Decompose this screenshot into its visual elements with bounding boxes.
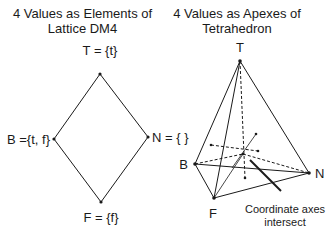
tetra-center-point	[242, 153, 245, 156]
lattice-edge-t-b	[54, 74, 100, 139]
tetra-label-b: B	[179, 157, 188, 172]
lattice-node-b	[52, 137, 55, 140]
lattice-node-f	[99, 200, 102, 203]
tetra-label-f: F	[209, 206, 217, 221]
tetra-edge-b-f	[195, 164, 214, 198]
tetra-axis-vertical	[240, 61, 245, 178]
lattice-diagram	[54, 74, 148, 202]
lattice-node-n	[146, 135, 149, 138]
lattice-edge-t-n	[100, 74, 148, 137]
annotation-line1: Coordinate axes	[245, 203, 326, 215]
tetra-label-t: T	[236, 40, 244, 55]
tetrahedron-diagram	[195, 61, 309, 198]
tetra-axis-end-upper	[255, 133, 258, 136]
lattice-label-f: F = {f}	[83, 210, 119, 225]
tetra-vertex-n	[307, 171, 311, 175]
lattice-edge-n-f	[101, 137, 148, 202]
lattice-label-b: B ={t, f}	[7, 132, 51, 147]
tetra-vertex-t	[238, 59, 242, 63]
lattice-nodes	[52, 72, 149, 203]
tetra-edge-t-b	[195, 61, 240, 164]
lattice-label-n: N = { }	[152, 130, 189, 145]
tetra-axis-end-left	[210, 144, 213, 147]
annotation-line2: intersect	[264, 216, 306, 228]
diagram-canvas: T = {t} B ={t, f} N = { } F = {f} T B N	[0, 0, 330, 235]
tetra-axis-end-right	[257, 150, 260, 153]
tetra-edge-t-f	[214, 61, 240, 198]
annotation-arrow	[250, 160, 281, 191]
lattice-edge-b-f	[54, 139, 101, 202]
tetra-axis-end-bottom	[244, 177, 247, 180]
tetra-vertex-f	[212, 196, 216, 200]
lattice-label-t: T = {t}	[83, 43, 118, 58]
tetra-axis-diagonal-1	[211, 145, 258, 151]
tetra-vertex-b	[193, 162, 197, 166]
lattice-node-t	[98, 72, 101, 75]
tetra-label-n: N	[315, 166, 324, 181]
